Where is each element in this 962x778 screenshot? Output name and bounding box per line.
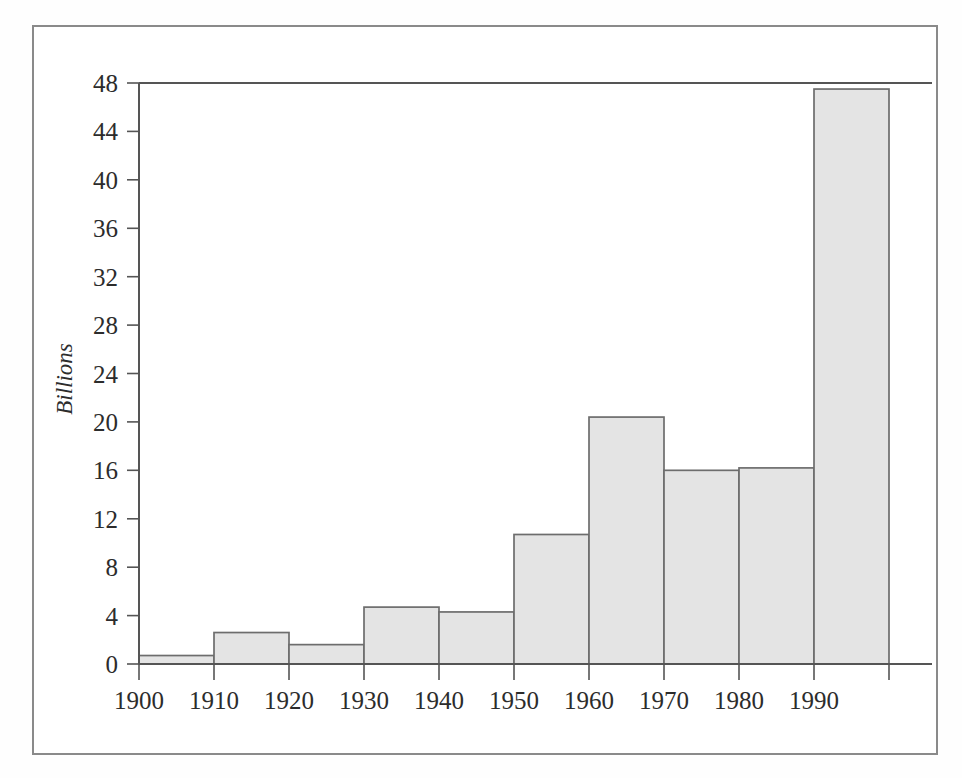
y-tick-label-36: 36 <box>93 215 118 242</box>
x-tick-label-1990: 1990 <box>789 687 839 714</box>
x-tick-label-1930: 1930 <box>339 687 389 714</box>
y-tick-labels-group: 0 4 8 12 16 20 24 28 32 36 40 44 48 <box>93 70 119 678</box>
y-tick-label-44: 44 <box>93 118 119 145</box>
bar-chart: 0 4 8 12 16 20 24 28 32 36 40 44 48 <box>34 27 936 753</box>
y-tick-label-12: 12 <box>93 506 118 533</box>
x-tick-label-1920: 1920 <box>264 687 314 714</box>
bars-group <box>139 89 889 664</box>
y-axis-title: Billions <box>52 343 77 415</box>
y-tick-label-16: 16 <box>93 457 118 484</box>
y-tick-label-48: 48 <box>93 70 118 97</box>
x-tick-label-1980: 1980 <box>714 687 764 714</box>
y-ticks-group <box>127 83 139 664</box>
x-tick-label-1940: 1940 <box>414 687 464 714</box>
x-tick-label-1970: 1970 <box>639 687 689 714</box>
x-tick-label-1910: 1910 <box>189 687 239 714</box>
y-tick-label-4: 4 <box>106 603 119 630</box>
bar-1980 <box>739 468 814 664</box>
y-tick-label-0: 0 <box>106 651 119 678</box>
bar-1950 <box>514 534 589 664</box>
x-tick-label-1950: 1950 <box>489 687 539 714</box>
bar-1990 <box>814 89 889 664</box>
y-tick-label-8: 8 <box>106 554 119 581</box>
bar-1970 <box>664 470 739 664</box>
bar-1920 <box>289 645 364 664</box>
bar-1960 <box>589 417 664 664</box>
y-tick-label-20: 20 <box>93 409 118 436</box>
bar-1910 <box>214 633 289 664</box>
y-tick-label-24: 24 <box>93 361 119 388</box>
y-tick-label-28: 28 <box>93 312 118 339</box>
bar-1930 <box>364 607 439 664</box>
x-tick-label-1900: 1900 <box>114 687 164 714</box>
y-tick-label-32: 32 <box>93 264 118 291</box>
bar-1900 <box>139 656 214 664</box>
figure-frame: 0 4 8 12 16 20 24 28 32 36 40 44 48 <box>32 25 938 755</box>
x-tick-label-1960: 1960 <box>564 687 614 714</box>
chart-page: 0 4 8 12 16 20 24 28 32 36 40 44 48 <box>0 0 962 778</box>
x-tick-labels-group: 1900 1910 1920 1930 1940 1950 1960 1970 … <box>114 687 839 714</box>
bar-1940 <box>439 612 514 664</box>
y-tick-label-40: 40 <box>93 167 118 194</box>
x-ticks-group <box>139 664 889 680</box>
